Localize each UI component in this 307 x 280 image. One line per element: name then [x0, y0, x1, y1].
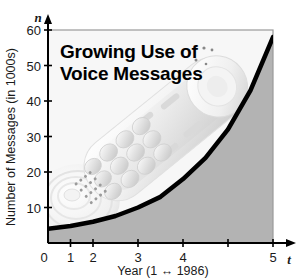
x-tick-label-2: 2: [89, 250, 96, 265]
y-axis-arrow: [44, 14, 52, 24]
x-tick-label-1: 1: [67, 250, 74, 265]
chart-title: Growing Use of Voice Messages: [60, 41, 203, 84]
y-tick-labels: 60 50 40 30 20 10: [27, 23, 41, 216]
x-tick-label-4: 4: [179, 250, 186, 265]
y-tick-label-20: 20: [27, 165, 41, 180]
x-axis-title: Year (1 ↔ 1986): [117, 264, 208, 278]
voice-messages-chart: 60 50 40 30 20 10 0 1 2 3 4 4 5 n t Numb…: [0, 0, 307, 280]
y-tick-label-60: 60: [27, 23, 41, 38]
y-tick-label-50: 50: [27, 59, 41, 74]
y-tick-label-30: 30: [27, 130, 41, 145]
x-axis-arrow: [286, 239, 296, 247]
y-axis-symbol: n: [34, 10, 41, 25]
chart-title-line-1: Growing Use of: [60, 41, 198, 62]
x-tick-labels: 0 1 2 3 4 4 5: [40, 250, 276, 265]
x-tick-label-5: 5: [269, 250, 276, 265]
y-axis-title: Number of Messages (in 1000s): [4, 48, 18, 226]
x-tick-label-0: 0: [40, 250, 47, 265]
chart-figure: 60 50 40 30 20 10 0 1 2 3 4 4 5 n t Numb…: [0, 0, 307, 280]
y-tick-label-40: 40: [27, 94, 41, 109]
y-tick-label-10: 10: [27, 201, 41, 216]
x-tick-label-3: 3: [134, 250, 141, 265]
x-axis-symbol: t: [287, 252, 291, 267]
chart-title-line-2: Voice Messages: [60, 63, 203, 84]
